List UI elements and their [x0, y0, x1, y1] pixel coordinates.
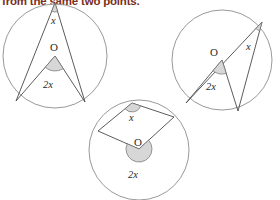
figure-circle-left: x O 2x: [3, 3, 107, 108]
circle-theorem-diagram: x O 2x x O 2x x O 2x: [0, 0, 280, 200]
figure-circle-bottom: x O 2x: [89, 100, 189, 200]
label-center-O-right: O: [210, 46, 218, 58]
label-center-O-bottom: O: [134, 136, 142, 148]
label-x-right: x: [245, 41, 251, 52]
figure-page: from the same two points. x O 2x x O 2x: [0, 0, 280, 200]
label-x-bottom: x: [128, 112, 134, 123]
figure-circle-right: x O 2x: [172, 10, 272, 111]
label-2x-right: 2x: [206, 81, 216, 92]
label-x-left: x: [50, 15, 56, 26]
label-2x-left: 2x: [43, 79, 53, 90]
label-2x-bottom: 2x: [128, 169, 138, 180]
label-center-O-left: O: [50, 41, 58, 53]
